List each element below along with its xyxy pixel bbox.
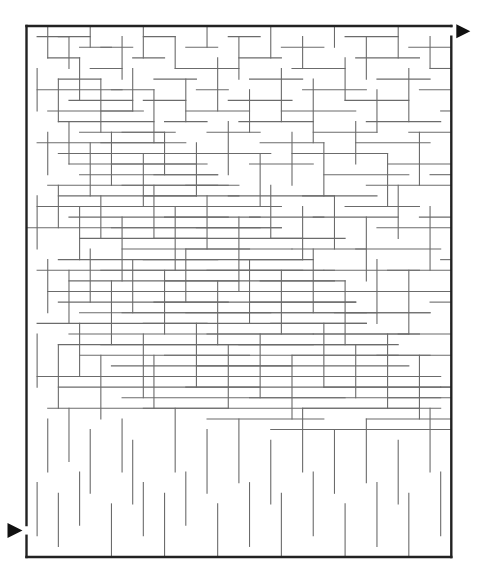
- entrance-arrow-icon: [8, 523, 23, 538]
- maze-walls: [27, 26, 452, 557]
- maze-canvas: [0, 0, 491, 578]
- exit-arrow-icon: [456, 24, 470, 38]
